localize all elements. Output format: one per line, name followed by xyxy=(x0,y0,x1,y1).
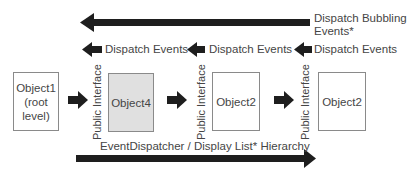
object2-label-2: Object2 xyxy=(322,95,362,109)
dispatch-arrow-icon-1 xyxy=(82,42,102,57)
object4-box: Object4 xyxy=(108,73,154,132)
object1-sublabel-2: level) xyxy=(16,109,56,123)
bubbling-label-line1: Dispatch Bubbling xyxy=(314,12,407,25)
dispatch-arrow-icon-2 xyxy=(187,42,205,57)
public-interface-label-1: Public Interface xyxy=(91,64,103,140)
object4-label: Object4 xyxy=(111,96,151,110)
object2-box-2: Object2 xyxy=(318,72,366,131)
bubbling-label-line2: Events* xyxy=(314,25,407,38)
bubbling-label: Dispatch Bubbling Events* xyxy=(314,12,407,38)
dispatch-arrow-icon-3 xyxy=(294,42,312,57)
object1-sublabel-1: (root xyxy=(16,95,56,109)
object2-label-1: Object2 xyxy=(216,95,256,109)
dispatch-events-label-2: Dispatch Events xyxy=(209,43,292,56)
object2-box-1: Object2 xyxy=(212,72,260,131)
public-interface-label-2: Public Interface xyxy=(195,64,207,140)
bubbling-arrow-icon xyxy=(80,13,310,32)
right-arrow-icon-3 xyxy=(274,91,294,109)
public-interface-label-3: Public Interface xyxy=(299,64,311,140)
dispatch-events-label-3: Dispatch Events xyxy=(314,43,397,56)
right-arrow-icon-2 xyxy=(167,91,187,109)
right-arrow-icon-1 xyxy=(68,91,88,109)
hierarchy-label: EventDispatcher / Display List* Hierarch… xyxy=(100,140,310,153)
object1-label: Object1 xyxy=(16,81,56,95)
dispatch-events-label-1: Dispatch Events xyxy=(105,43,188,56)
object1-root-box: Object1 (root level) xyxy=(13,72,59,131)
